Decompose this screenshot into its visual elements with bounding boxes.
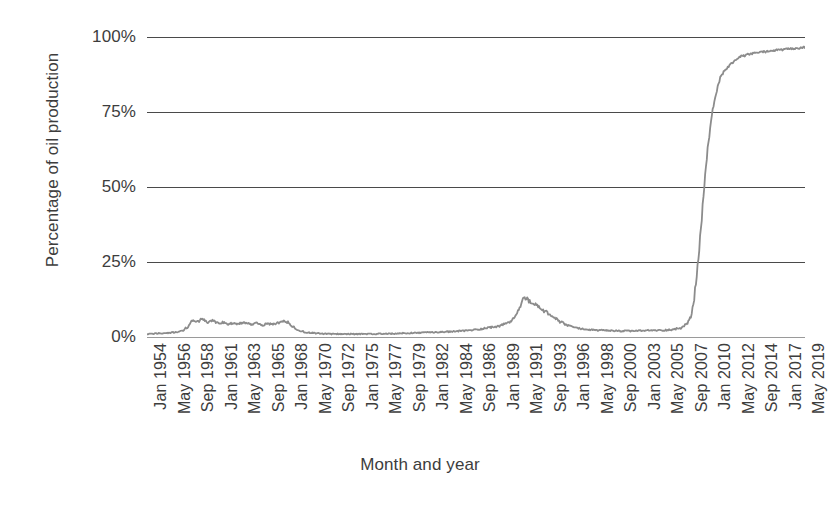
x-axis-tick-label: Jan 2017 (787, 343, 805, 410)
x-axis-tick-label: Jan 1961 (223, 343, 241, 410)
x-axis-tick-label: Jan 1968 (293, 343, 311, 410)
x-axis-tick-label: May 1970 (317, 343, 335, 414)
y-axis-tick-label: 25% (102, 252, 136, 272)
series-path (147, 47, 805, 335)
x-axis-tick-label: Sep 1979 (411, 343, 429, 412)
data-series-line (147, 37, 805, 337)
x-axis-tick-label: Jan 1982 (434, 343, 452, 410)
y-axis-tick-labels: 0%25%50%75%100% (78, 0, 136, 360)
x-axis-tick-label: Sep 1958 (199, 343, 217, 412)
x-axis-tick-label: May 2012 (740, 343, 758, 414)
x-axis-tick-label: Sep 1993 (552, 343, 570, 412)
x-axis-tick-label: May 1977 (387, 343, 405, 414)
y-axis-tick-label: 50% (102, 177, 136, 197)
x-axis-tick-label: Sep 2014 (763, 343, 781, 412)
x-axis-tick-label: Jan 2003 (646, 343, 664, 410)
gridline (147, 337, 805, 338)
y-axis-tick-label: 0% (111, 327, 136, 347)
x-axis-tick-labels: Jan 1954May 1956Sep 1958Jan 1961May 1963… (147, 343, 805, 448)
x-axis-tick-label: Jan 1989 (505, 343, 523, 410)
x-axis-tick-label: Sep 1972 (340, 343, 358, 412)
x-axis-tick-label: Sep 1986 (481, 343, 499, 412)
y-axis-tick-label: 100% (92, 27, 136, 47)
x-axis-tick-label: May 1963 (246, 343, 264, 414)
x-axis-tick-label: May 1998 (599, 343, 617, 414)
x-axis-tick-label: May 2005 (669, 343, 687, 414)
x-axis-tick-label: Jan 1954 (152, 343, 170, 410)
x-axis-tick-label: Jan 2010 (716, 343, 734, 410)
x-axis-tick-label: May 2019 (810, 343, 828, 414)
chart-figure: Percentage of oil production 0%25%50%75%… (0, 0, 840, 505)
x-axis-tick-label: Sep 2007 (693, 343, 711, 412)
x-axis-tick-label: Sep 2000 (622, 343, 640, 412)
x-axis-tick-label: May 1956 (176, 343, 194, 414)
x-axis-tick-label: May 1991 (528, 343, 546, 414)
x-axis-tick-label: Jan 1996 (575, 343, 593, 410)
y-axis-tick-label: 75% (102, 102, 136, 122)
y-axis-title: Percentage of oil production (43, 15, 63, 305)
plot-area (147, 37, 805, 337)
x-axis-title: Month and year (0, 455, 840, 475)
x-axis-tick-label: May 1984 (458, 343, 476, 414)
x-axis-tick-label: Jan 1975 (364, 343, 382, 410)
x-axis-tick-label: Sep 1965 (270, 343, 288, 412)
